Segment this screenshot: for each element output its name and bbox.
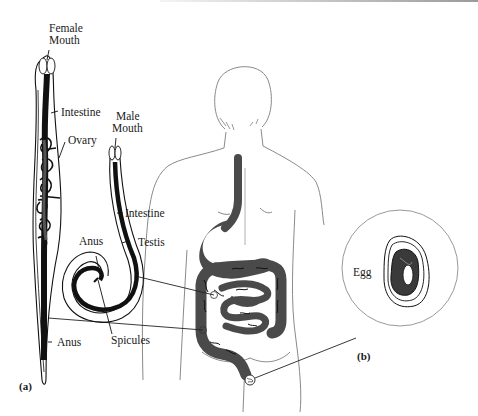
- male-intestine-label: Intestine: [125, 207, 165, 219]
- male-anus-label: Anus: [79, 235, 103, 247]
- egg-label: Egg: [353, 266, 372, 278]
- female-intestine-label: Intestine: [61, 106, 101, 118]
- spicules-label: Spicules: [111, 334, 150, 346]
- diagram-canvas: [0, 0, 478, 416]
- female-worm-drawing: [33, 56, 61, 384]
- female-mouth-label: Female Mouth: [49, 22, 83, 46]
- panel-b-label: (b): [357, 350, 370, 362]
- digestive-tract: [199, 158, 281, 385]
- ovary-label: Ovary: [68, 134, 97, 146]
- male-mouth-label-line1: Male: [112, 110, 143, 122]
- testis-label: Testis: [138, 236, 165, 248]
- female-anus-label: Anus: [57, 336, 81, 348]
- male-mouth-label: Male Mouth: [112, 110, 143, 134]
- male-mouth-label-line2: Mouth: [112, 122, 143, 134]
- female-mouth-label-line2: Mouth: [49, 34, 83, 46]
- female-mouth-label-line1: Female: [49, 22, 83, 34]
- panel-a-label: (a): [19, 380, 32, 392]
